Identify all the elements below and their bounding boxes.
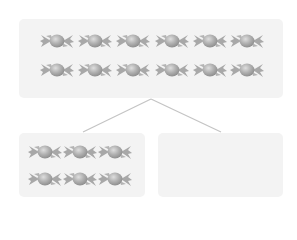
candy-icon bbox=[116, 32, 150, 50]
candy-icon bbox=[63, 170, 97, 188]
candy-icon bbox=[28, 170, 62, 188]
candy-icon bbox=[63, 143, 97, 161]
candy-icon bbox=[230, 61, 264, 79]
candy-icon bbox=[230, 32, 264, 50]
candy-icon bbox=[40, 32, 74, 50]
candy-icon bbox=[78, 32, 112, 50]
candy-icon bbox=[78, 61, 112, 79]
candy-icon bbox=[40, 61, 74, 79]
candy-icon bbox=[193, 32, 227, 50]
candy-icon bbox=[155, 61, 189, 79]
candy-icon bbox=[116, 61, 150, 79]
candy-icon bbox=[28, 143, 62, 161]
candy-icon bbox=[98, 170, 132, 188]
candy-icon bbox=[193, 61, 227, 79]
candy-icon bbox=[155, 32, 189, 50]
candy-icon bbox=[98, 143, 132, 161]
